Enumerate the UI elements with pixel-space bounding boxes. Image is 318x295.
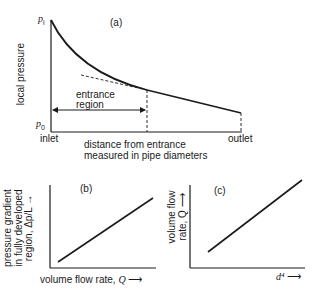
panel-a-extrapolation-dashed bbox=[81, 75, 147, 90]
panel-a-y-label: local pressure bbox=[16, 45, 27, 105]
outlet-label: outlet bbox=[228, 133, 252, 144]
panel-a-developed-line bbox=[147, 90, 241, 113]
entrance-label-2: region bbox=[76, 99, 104, 110]
panel-b-data-line bbox=[58, 198, 153, 262]
panel-a-entrance-curve bbox=[51, 20, 147, 90]
p-inlet-label: pi bbox=[38, 13, 45, 28]
panel-b-y-label: pressure gradient in fully developed reg… bbox=[3, 178, 35, 278]
panel-c-y-label: volume flow rate, Q ⟶ bbox=[167, 184, 189, 250]
panel-c-tag: (c) bbox=[214, 185, 226, 196]
panel-a-x-label-2: measured in pipe diameters bbox=[84, 150, 207, 161]
panel-b-tag: (b) bbox=[80, 183, 92, 194]
inlet-label: inlet bbox=[40, 133, 58, 144]
p-outlet-label: p0 bbox=[36, 118, 45, 133]
panel-a-axes bbox=[51, 20, 242, 132]
panel-a-tag: (a) bbox=[110, 17, 122, 28]
panel-b-x-label: volume flow rate, Q ⟶ bbox=[40, 274, 142, 285]
panel-a-x-label-1: distance from entrance bbox=[84, 139, 186, 150]
panel-c-x-label: d⁴ ⟶ bbox=[276, 271, 301, 282]
